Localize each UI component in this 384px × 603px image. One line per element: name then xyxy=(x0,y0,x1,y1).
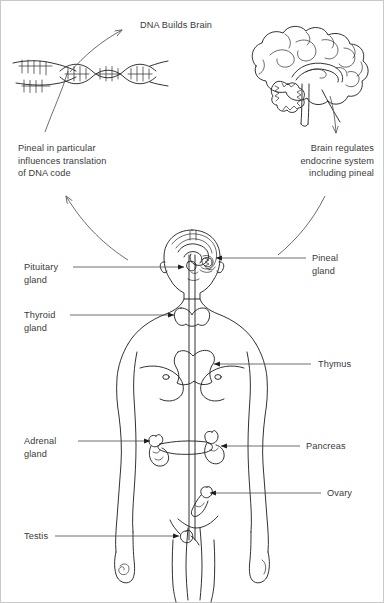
label-pineal-gland: Pineal gland xyxy=(312,252,376,277)
brain-illustration xyxy=(252,26,368,126)
label-testis: Testis xyxy=(24,530,84,543)
caption-brain-regulates-endocrine: Brain regulates endocrine system includi… xyxy=(244,142,374,180)
label-pituitary-gland: Pituitary gland xyxy=(24,261,84,286)
label-thymus: Thymus xyxy=(318,358,382,371)
adrenal-right-shape xyxy=(205,431,225,464)
caption-dna-builds-brain: DNA Builds Brain xyxy=(140,19,260,32)
brain-to-body-arc xyxy=(278,196,325,255)
label-pancreas: Pancreas xyxy=(306,440,376,453)
label-ovary: Ovary xyxy=(327,487,383,500)
dna-double-helix-illustration xyxy=(13,60,168,93)
pancreas-shape xyxy=(158,441,212,454)
label-adrenal-gland: Adrenal gland xyxy=(24,435,84,460)
adrenal-left-shape xyxy=(149,435,169,467)
label-thyroid-gland: Thyroid gland xyxy=(24,309,84,334)
human-body-illustration xyxy=(115,230,270,602)
pineal-to-dna-arc xyxy=(66,196,128,260)
thyroid-gland-shape xyxy=(174,308,209,326)
diagram-artwork xyxy=(0,0,384,603)
page-frame xyxy=(1,1,384,603)
thymus-gland-shape xyxy=(174,350,214,384)
diagram-canvas: DNA Builds Brain Pineal in particular in… xyxy=(0,0,384,603)
ovary-shape xyxy=(191,487,212,517)
caption-pineal-influences-dna: Pineal in particular influences translat… xyxy=(18,142,158,180)
dna-builds-brain-arrow xyxy=(70,30,122,72)
